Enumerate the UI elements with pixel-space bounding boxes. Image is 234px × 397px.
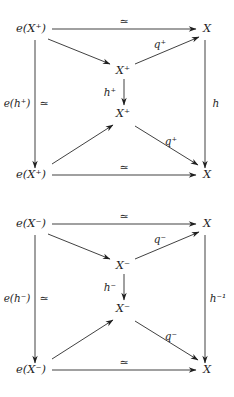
arrow-mid-to-topright-plus — [135, 37, 199, 64]
edge-label-right-vertical-minus: h⁻¹ — [210, 293, 227, 304]
figure-root: e(X⁺) X X⁺ X⁺ e(X⁺) X ≃ ≃ e(h⁺) ≃ h h⁺ q… — [0, 0, 234, 397]
arrow-topleft-to-mid-plus — [48, 39, 110, 64]
node-mid-upper-minus: X⁻ — [116, 260, 130, 272]
edge-label-diag-upper-right-plus: q⁺ — [154, 39, 166, 50]
edge-label-center-vertical-minus: h⁻ — [104, 282, 116, 293]
arrow-topleft-to-mid-minus — [48, 234, 110, 259]
edge-label-left-vertical-simeq-plus: ≃ — [39, 98, 48, 109]
diagram-minus-arrows — [35, 224, 205, 370]
edge-label-diag-lower-right-minus: q⁻ — [165, 331, 177, 342]
node-mid-lower-plus: X⁺ — [116, 108, 130, 120]
arrow-mid-to-topright-minus — [135, 232, 199, 259]
edge-label-top-horizontal-plus: ≃ — [119, 16, 128, 27]
node-top-left-minus: e(X⁻) — [16, 218, 46, 230]
edge-label-top-horizontal-minus: ≃ — [119, 211, 128, 222]
edge-label-right-vertical-plus: h — [213, 98, 220, 109]
node-bottom-right-minus: X — [203, 364, 211, 376]
edge-label-bottom-horizontal-plus: ≃ — [119, 162, 128, 173]
node-bottom-left-minus: e(X⁻) — [16, 364, 46, 376]
edge-label-left-vertical-simeq-minus: ≃ — [39, 293, 48, 304]
node-mid-upper-plus: X⁺ — [116, 65, 130, 77]
node-top-left-plus: e(X⁺) — [16, 23, 46, 35]
arrow-botleft-to-mid2-minus — [52, 320, 113, 359]
edge-label-diag-upper-right-minus: q⁻ — [154, 234, 166, 245]
edge-label-diag-lower-right-plus: q⁺ — [165, 136, 177, 147]
node-top-right-minus: X — [203, 218, 211, 230]
edge-label-bottom-horizontal-minus: ≃ — [119, 357, 128, 368]
node-mid-lower-minus: X⁻ — [116, 303, 130, 315]
edge-label-left-vertical-minus: e(h⁻) — [4, 293, 31, 304]
node-bottom-right-plus: X — [203, 169, 211, 181]
diagram-plus-arrows — [35, 29, 205, 175]
edge-label-center-vertical-plus: h⁺ — [104, 87, 116, 98]
edge-label-left-vertical-plus: e(h⁺) — [4, 98, 31, 109]
node-bottom-left-plus: e(X⁺) — [16, 169, 46, 181]
node-top-right-plus: X — [203, 23, 211, 35]
diagram-arrows-layer — [0, 0, 234, 397]
arrow-botleft-to-mid2-plus — [52, 125, 113, 164]
